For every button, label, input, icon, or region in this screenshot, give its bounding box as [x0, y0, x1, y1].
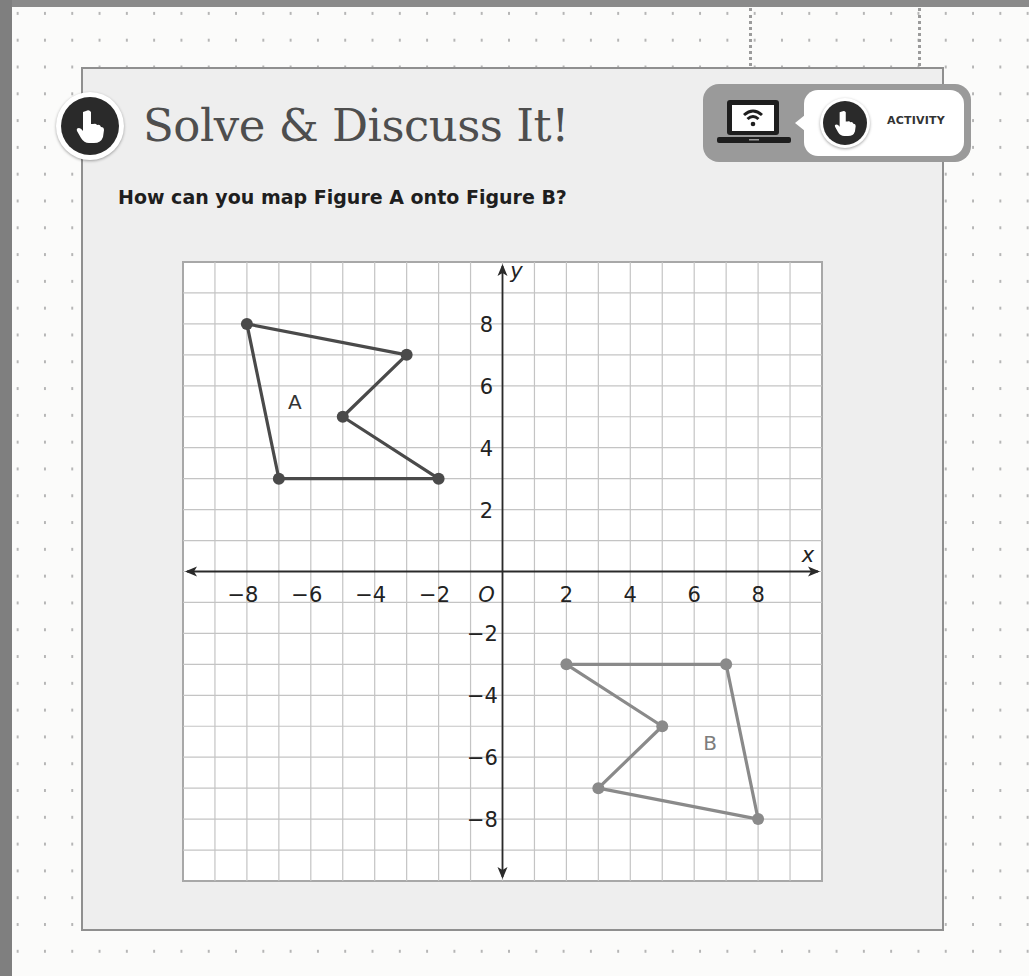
origin-label: O: [478, 583, 495, 607]
figure-b-vertex: [720, 658, 732, 670]
x-axis-label: x: [801, 543, 815, 567]
figure-b-label: B: [703, 731, 717, 755]
y-tick-label: −2: [467, 622, 498, 646]
y-tick-label: −8: [467, 808, 498, 832]
figure-a-vertex: [337, 411, 349, 423]
y-axis-label: y: [509, 259, 523, 283]
y-tick-label: −6: [467, 746, 498, 770]
y-tick-label: 4: [480, 437, 493, 461]
x-tick-label: −2: [419, 583, 450, 607]
x-tick-label: 8: [751, 583, 764, 607]
y-tick-label: 6: [480, 375, 493, 399]
figure-b-vertex: [592, 782, 604, 794]
x-tick-label: 6: [688, 583, 701, 607]
x-tick-label: 4: [624, 583, 637, 607]
coordinate-plane: −8−6−4−224688642−2−4−6−8OxyAB: [0, 0, 1029, 976]
x-tick-label: −6: [291, 583, 322, 607]
figure-a-vertex: [273, 473, 285, 485]
y-tick-label: 8: [480, 313, 493, 337]
x-tick-label: −4: [355, 583, 386, 607]
figure-a-vertex: [401, 349, 413, 361]
figure-b-vertex: [752, 813, 764, 825]
figure-a-label: A: [288, 390, 302, 414]
figure-b-vertex: [656, 720, 668, 732]
figure-b-vertex: [560, 658, 572, 670]
x-tick-label: 2: [560, 583, 573, 607]
y-tick-label: −4: [467, 684, 498, 708]
y-tick-label: 2: [480, 499, 493, 523]
x-tick-label: −8: [227, 583, 258, 607]
figure-a-vertex: [241, 318, 253, 330]
figure-a-vertex: [433, 473, 445, 485]
